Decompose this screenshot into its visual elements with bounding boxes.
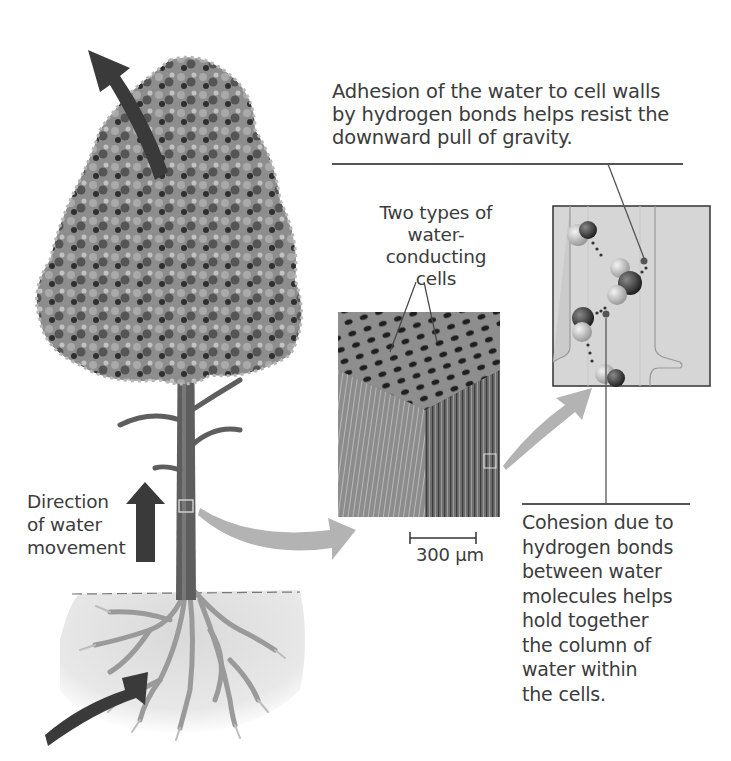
- cohesion-line-5: hold together: [522, 608, 673, 633]
- cohesion-line-7: water within: [522, 657, 673, 682]
- cell-types-line-2: water-conducting: [360, 224, 512, 268]
- adhesion-line-3: downward pull of gravity.: [332, 126, 669, 149]
- cohesion-line-1: Cohesion due to: [522, 510, 673, 535]
- cohesion-line-3: between water: [522, 559, 673, 584]
- adhesion-line-2: by hydrogen bonds helps resist the: [332, 103, 669, 126]
- direction-label: Direction of water movement: [27, 490, 125, 559]
- micrograph-image: [338, 312, 500, 517]
- cohesion-line-4: molecules helps: [522, 584, 673, 609]
- direction-line-3: movement: [27, 536, 125, 559]
- adhesion-divider: [332, 163, 683, 165]
- cohesion-label: Cohesion due to hydrogen bonds between w…: [522, 510, 673, 706]
- cohesion-line-8: the cells.: [522, 682, 673, 707]
- cell-types-label: Two types of water-conducting cells: [366, 202, 506, 290]
- direction-line-1: Direction: [27, 490, 125, 513]
- adhesion-label: Adhesion of the water to cell walls by h…: [332, 80, 669, 149]
- cell-types-line-3: cells: [366, 268, 506, 290]
- cell-types-line-1: Two types of: [366, 202, 506, 224]
- cohesion-line-2: hydrogen bonds: [522, 535, 673, 560]
- molecule-inset: [553, 206, 710, 387]
- direction-line-2: of water: [27, 513, 125, 536]
- cohesion-line-6: the column of: [522, 633, 673, 658]
- scale-bar-label: 300 µm: [416, 543, 484, 566]
- cohesion-divider: [522, 503, 690, 505]
- adhesion-line-1: Adhesion of the water to cell walls: [332, 80, 669, 103]
